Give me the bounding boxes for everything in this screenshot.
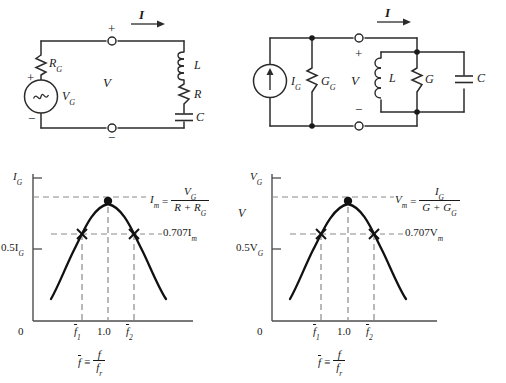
current-label: I (385, 6, 390, 19)
equals-sign: = (410, 195, 416, 207)
series-resonance-chart-panel: IG 0.5IG 0 f1 1.0 f2 Im = VG R + RG 0.70… (0, 145, 253, 383)
terminal-plus-sign: + (108, 22, 115, 35)
equals-sign: = (162, 195, 168, 207)
x-axis-label: f ≡ f fr (318, 348, 345, 376)
fraction-numerator: f (333, 348, 345, 360)
x-axis-label-symbol: f (78, 356, 81, 368)
equivalence-sign: ≡ (324, 356, 330, 368)
inductor-symbol (375, 58, 381, 98)
terminal-voltage-label: V (103, 76, 111, 89)
generator-resistor-symbol (36, 55, 46, 75)
terminal-minus-sign: − (355, 103, 362, 116)
series-rlc-circuit-panel: RG VG + − L R C V + − I (0, 0, 253, 145)
x-tick-label-f2: f2 (126, 326, 133, 340)
terminal-minus-sign: − (108, 131, 115, 144)
y-tick-label-zero: 0 (257, 326, 263, 337)
fraction-denominator: R + RG (171, 200, 209, 216)
half-power-annotation: 0.707Im (163, 227, 197, 241)
fraction-numerator: VG (171, 185, 209, 200)
inductor-symbol (178, 52, 184, 80)
x-tick-label-fr: 1.0 (337, 326, 351, 337)
source-voltage-label: VG (62, 90, 75, 106)
parallel-resonance-chart (232, 145, 506, 383)
x-axis-label-fraction: f fr (93, 348, 105, 376)
generator-conductance-label: GG (321, 75, 336, 91)
source-minus-sign: − (28, 112, 35, 125)
fraction-denominator: fr (93, 360, 105, 376)
fraction-denominator: G + GG (419, 200, 459, 216)
terminal-top (355, 34, 363, 42)
x-axis-label-symbol: f (318, 356, 321, 368)
peak-annotation: Im = VG R + RG (150, 185, 209, 216)
capacitor-label: C (477, 72, 485, 84)
x-tick-label-fr: 1.0 (97, 326, 111, 337)
parallel-resonance-chart-panel: V VG 0.5VG 0 f1 1.0 f2 Vm = IG G + GG 0.… (232, 145, 506, 383)
peak-annotation-fraction: VG R + RG (171, 185, 209, 216)
parallel-glc-schematic (253, 0, 506, 145)
capacitor-label: C (196, 111, 204, 123)
inductor-label: L (389, 72, 396, 84)
fraction-numerator: f (93, 348, 105, 360)
peak-annotation-lhs: Im (150, 193, 159, 208)
capacitor-symbol (455, 76, 473, 83)
resistor-label: R (194, 88, 201, 100)
x-axis-label: f ≡ f fr (78, 348, 105, 376)
x-tick-label-f1: f1 (74, 326, 81, 340)
generator-conductance-symbol (307, 68, 317, 92)
x-axis-label-fraction: f fr (333, 348, 345, 376)
fraction-denominator: fr (333, 360, 345, 376)
current-label: I (139, 8, 144, 21)
terminal-voltage-label: V (351, 74, 359, 87)
terminal-bottom (355, 122, 363, 130)
current-arrow (377, 19, 411, 26)
half-power-annotation: 0.707Vm (405, 227, 443, 241)
series-resonance-chart (0, 145, 253, 383)
equivalence-sign: ≡ (84, 356, 90, 368)
terminal-top (108, 37, 116, 45)
current-arrow (131, 21, 165, 28)
x-tick-label-f1: f1 (313, 326, 320, 340)
source-plus-sign: + (27, 71, 34, 84)
peak-annotation-lhs: Vm (395, 193, 407, 208)
generator-resistor-label: RG (49, 57, 62, 73)
y-tick-label-half-ig: 0.5IG (1, 242, 24, 256)
y-tick-label-zero: 0 (18, 326, 24, 337)
terminal-plus-sign: + (355, 47, 362, 60)
x-tick-label-f2: f2 (366, 326, 373, 340)
y-tick-label-half-vg: 0.5VG (236, 242, 263, 256)
capacitor-symbol (175, 114, 193, 121)
parallel-glc-circuit-panel: IG GG L G C V + − I (253, 0, 506, 145)
conductance-label: G (425, 73, 434, 85)
source-current-label: IG (291, 75, 301, 91)
y-tick-label-vg: VG (250, 171, 262, 185)
y-axis-label: V (238, 207, 245, 219)
ac-current-source-symbol (254, 65, 287, 98)
fraction-numerator: IG (419, 185, 459, 200)
peak-marker (344, 197, 352, 205)
peak-annotation: Vm = IG G + GG (395, 185, 460, 216)
peak-marker (104, 197, 112, 205)
y-tick-label-ig: IG (13, 171, 22, 185)
peak-annotation-fraction: IG G + GG (419, 185, 459, 216)
resistor-symbol (179, 84, 189, 104)
series-rlc-schematic (0, 0, 253, 145)
inductor-label: L (194, 59, 201, 71)
conductance-symbol (412, 68, 422, 92)
